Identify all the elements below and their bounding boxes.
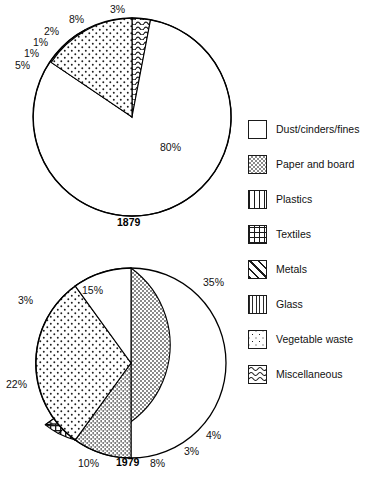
pie-label-1879-plastics: 1% xyxy=(33,36,48,48)
legend-item-plastics[interactable]: Plastics xyxy=(248,188,368,210)
pie-label-1879-paper: 5% xyxy=(15,59,30,71)
pie-label-1979-glass: 10% xyxy=(78,457,99,469)
legend-item-miscellaneous[interactable]: Miscellaneous xyxy=(248,363,368,385)
pie-label-1879-miscellaneous: 3% xyxy=(110,3,125,15)
legend-label-textiles: Textiles xyxy=(276,229,311,240)
legend-label-vegetable-waste: Vegetable waste xyxy=(276,334,353,345)
legend-item-dust[interactable]: Dust/cinders/fines xyxy=(248,118,368,140)
legend-item-metals[interactable]: Metals xyxy=(248,258,368,280)
pie-chart-1879 xyxy=(33,18,231,216)
pie-year-label-1979: 1979 xyxy=(116,456,139,468)
legend-swatch-dust-icon xyxy=(248,120,267,139)
legend-label-miscellaneous: Miscellaneous xyxy=(276,369,343,380)
pie-label-1979-metals: 8% xyxy=(150,457,165,469)
legend-swatch-metals-icon xyxy=(248,260,267,279)
legend-swatch-plastics-icon xyxy=(248,190,267,209)
legend-label-plastics: Plastics xyxy=(276,194,312,205)
pie-label-1879-dust: 80% xyxy=(160,141,181,153)
legend-label-metals: Metals xyxy=(276,264,307,275)
pie-label-1879-textiles: 1% xyxy=(24,47,39,59)
pie-label-1979-paper: 35% xyxy=(203,276,224,288)
legend: Dust/cinders/fines Paper and board Plast… xyxy=(248,118,368,398)
legend-swatch-glass-icon xyxy=(248,295,267,314)
legend-item-glass[interactable]: Glass xyxy=(248,293,368,315)
legend-swatch-textiles-icon xyxy=(248,225,267,244)
legend-item-textiles[interactable]: Textiles xyxy=(248,223,368,245)
legend-swatch-paper-icon xyxy=(248,155,267,174)
legend-item-vegetable-waste[interactable]: Vegetable waste xyxy=(248,328,368,350)
pie-label-1979-vegetable-waste: 22% xyxy=(6,378,27,390)
pie-label-1979-textiles: 3% xyxy=(184,445,199,457)
wavy-lines-icon xyxy=(249,366,266,383)
legend-item-paper[interactable]: Paper and board xyxy=(248,153,368,175)
legend-label-dust: Dust/cinders/fines xyxy=(276,124,359,135)
legend-swatch-miscellaneous-icon xyxy=(248,365,267,384)
legend-label-paper: Paper and board xyxy=(276,159,354,170)
pie-label-1979-plastics: 4% xyxy=(206,429,221,441)
pie-label-1979-miscellaneous: 3% xyxy=(18,294,33,306)
pie-chart-1979 xyxy=(36,268,226,458)
pie-label-1879-metals: 2% xyxy=(44,25,59,37)
legend-label-glass: Glass xyxy=(276,299,303,310)
pie-year-label-1879: 1879 xyxy=(117,216,140,228)
legend-swatch-vegetable-waste-icon xyxy=(248,330,267,349)
pie-label-1979-dust: 15% xyxy=(82,284,103,296)
pie-label-1879-vegetable-waste: 8% xyxy=(69,13,84,25)
